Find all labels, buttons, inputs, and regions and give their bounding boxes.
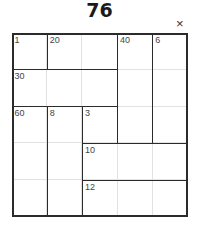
cage: 30: [12, 69, 119, 107]
cage-clue: 20: [50, 36, 60, 45]
cage: 60: [12, 106, 48, 217]
cage-clue: 30: [15, 72, 25, 81]
cage-clue: 10: [85, 146, 95, 155]
cage-clue: 6: [155, 36, 160, 45]
cage: 10: [82, 143, 189, 181]
close-icon[interactable]: ×: [176, 17, 184, 30]
puzzle-title: 76: [0, 0, 199, 21]
cage-clue: 60: [15, 109, 25, 118]
cage-clue: 12: [85, 183, 95, 192]
cage: 6: [152, 33, 188, 144]
cage-clue: 8: [50, 109, 55, 118]
cage: 3: [82, 106, 118, 144]
cage: 12: [82, 180, 189, 218]
cage: 8: [47, 106, 83, 217]
cage-clue: 1: [15, 36, 20, 45]
cage: 1: [12, 33, 48, 71]
cage: 20: [47, 33, 118, 71]
cage: 40: [117, 33, 153, 144]
cage-clue: 3: [85, 109, 90, 118]
cage-clue: 40: [120, 36, 130, 45]
puzzle-grid: 1204063060831012: [12, 33, 188, 217]
